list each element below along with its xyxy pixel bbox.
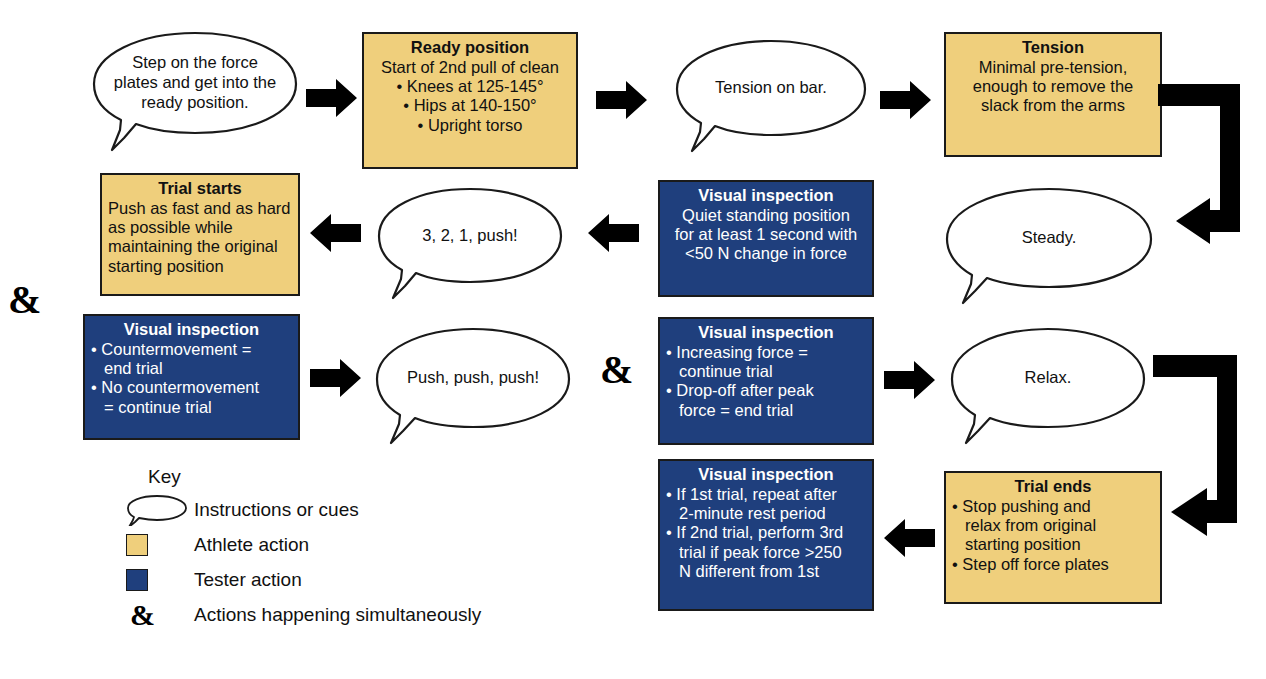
box-visual-inspection-quiet: Visual inspection Quiet standing positio… (658, 180, 874, 297)
box-bullet: • No countermovement (91, 378, 292, 397)
box-bullet: • Increasing force = (666, 343, 866, 362)
box-visual-inspection-force: Visual inspection • Increasing force = c… (658, 317, 874, 445)
box-visual-inspection-countermovement: Visual inspection • Countermovement = en… (83, 314, 300, 440)
key-item-athlete-action: Athlete action (118, 527, 481, 562)
box-line: as possible while (108, 218, 292, 237)
box-line: slack from the arms (952, 96, 1154, 115)
key-item-instructions: Instructions or cues (118, 492, 481, 527)
box-title: Visual inspection (666, 186, 866, 205)
box-title: Tension (952, 38, 1154, 57)
box-title: Visual inspection (666, 323, 866, 342)
box-line: starting position (108, 257, 292, 276)
box-tension: Tension Minimal pre-tension, enough to r… (944, 32, 1162, 157)
box-bullet: • If 1st trial, repeat after (666, 485, 866, 504)
box-bullet-cont: relax from original starting position (952, 516, 1154, 554)
key-title: Key (148, 466, 481, 488)
box-line: for at least 1 second with (666, 225, 866, 244)
bubble-step-on-force-plates: Step on the force plates and get into th… (90, 30, 300, 148)
box-line: <50 N change in force (666, 244, 866, 263)
bubble-text: Tension on bar. (673, 38, 869, 138)
bubble-push-push-push: Push, push, push! (373, 326, 573, 442)
arrow-elbow-tension-to-steady (1158, 84, 1266, 254)
box-bullet: • Stop pushing and (952, 497, 1154, 516)
key-item-label: Instructions or cues (194, 499, 359, 521)
box-trial-starts: Trial starts Push as fast and as hard as… (100, 173, 300, 296)
box-title: Visual inspection (666, 465, 866, 484)
bubble-text: 3, 2, 1, push! (375, 186, 565, 285)
box-line: enough to remove the (952, 77, 1154, 96)
box-bullet-cont: = continue trial (91, 398, 292, 417)
box-bullet-cont: trial if peak force >250 N different fro… (666, 543, 866, 581)
flowchart-canvas: Step on the force plates and get into th… (0, 0, 1266, 679)
box-title: Ready position (370, 38, 570, 57)
ampersand-glyph: & (130, 600, 155, 630)
bubble-text: Relax. (948, 326, 1148, 430)
arrow-ready-to-tension-cue (596, 80, 648, 120)
key-item-label: Actions happening simultaneously (194, 604, 481, 626)
box-line: maintaining the original (108, 237, 292, 256)
arrow-force-to-relax (884, 360, 936, 400)
key-item-label: Athlete action (194, 534, 309, 556)
box-bullet: • If 2nd trial, perform 3rd (666, 523, 866, 542)
box-line: Quiet standing position (666, 206, 866, 225)
bubble-steady: Steady. (943, 186, 1155, 302)
box-title: Trial starts (108, 179, 292, 198)
box-bullet: • Step off force plates (952, 555, 1154, 574)
arrow-trial-ends-to-repeat (884, 518, 936, 558)
blue-swatch-icon (118, 569, 194, 591)
box-bullet-cont: continue trial (666, 362, 866, 381)
key-item-tester-action: Tester action (118, 562, 481, 597)
key-legend: Key Instructions or cues Athlete action … (118, 466, 481, 632)
box-bullet-cont: end trial (91, 359, 292, 378)
bubble-text: Push, push, push! (373, 326, 573, 430)
box-line: Minimal pre-tension, (952, 58, 1154, 77)
box-title: Visual inspection (91, 320, 292, 339)
box-bullet: • Countermovement = (91, 340, 292, 359)
speech-bubble-icon (118, 494, 194, 526)
arrow-countdown-to-trial-starts (310, 213, 362, 253)
box-bullet: • Drop-off after peak (666, 381, 866, 400)
key-item-simultaneous: & Actions happening simultaneously (118, 597, 481, 632)
bubble-relax: Relax. (948, 326, 1148, 442)
bubble-text: Step on the force plates and get into th… (90, 30, 300, 136)
arrow-quiet-to-countdown (588, 213, 640, 253)
box-ready-position: Ready position Start of 2nd pull of clea… (362, 32, 578, 169)
arrow-tension-cue-to-tension (880, 80, 932, 120)
arrow-countermovement-to-push (310, 358, 362, 398)
box-visual-inspection-repeat: Visual inspection • If 1st trial, repeat… (658, 459, 874, 611)
bubble-tension-on-bar: Tension on bar. (673, 38, 869, 150)
box-trial-ends: Trial ends • Stop pushing and relax from… (944, 471, 1162, 604)
bubble-countdown: 3, 2, 1, push! (375, 186, 565, 296)
arrow-elbow-relax-to-trial-ends (1153, 355, 1263, 545)
box-title: Trial ends (952, 477, 1154, 496)
ampersand-icon: & (118, 600, 194, 630)
box-bullet: • Upright torso (370, 116, 570, 135)
bubble-text: Steady. (943, 186, 1155, 290)
yellow-swatch-icon (118, 534, 194, 556)
box-bullet-cont: force = end trial (666, 401, 866, 420)
box-bullet: • Hips at 140-150° (370, 96, 570, 115)
arrow-step-to-ready (306, 78, 358, 118)
box-line: Start of 2nd pull of clean (370, 58, 570, 77)
box-bullet: • Knees at 125-145° (370, 77, 570, 96)
key-item-label: Tester action (194, 569, 302, 591)
amp-left-simultaneous: & (8, 280, 41, 320)
box-line: Push as fast and as hard (108, 199, 292, 218)
amp-middle-simultaneous: & (600, 350, 633, 390)
box-bullet-cont: 2-minute rest period (666, 504, 866, 523)
